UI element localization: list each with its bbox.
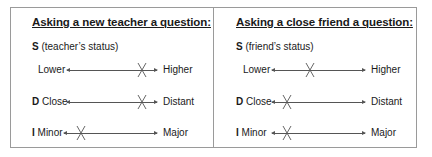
panel-title: Asking a close friend a question:: [236, 16, 413, 28]
status-desc: (friend’s status): [245, 41, 313, 52]
scale-right-label: Higher: [371, 63, 400, 77]
status-desc: (teacher’s status): [41, 41, 118, 52]
scale-right-label: Distant: [371, 95, 402, 109]
x-mark-icon: [282, 94, 292, 110]
scale-left-label: I Minor: [236, 126, 267, 140]
scale-left-label: Lower: [243, 63, 270, 77]
scale-axis: [272, 70, 365, 71]
scale-left-text: Minor: [242, 127, 267, 138]
scale-left-label: D Close: [236, 95, 272, 109]
status-heading: S (teacher’s status): [32, 41, 118, 52]
scale-imposition: I Minor Major: [0, 126, 432, 140]
x-mark-icon: [305, 62, 315, 78]
panel-title: Asking a new teacher a question:: [32, 16, 211, 28]
scale-letter: D: [236, 96, 243, 107]
status-heading: S (friend’s status): [236, 41, 314, 52]
scale-distance: D Close Distant: [0, 95, 432, 109]
x-mark-icon: [282, 125, 292, 141]
scale-letter: I: [236, 127, 239, 138]
scale-right-label: Major: [371, 126, 396, 140]
scale-left-text: Close: [246, 96, 272, 107]
status-letter: S: [236, 41, 243, 52]
scale-status: Lower Higher: [0, 63, 432, 77]
status-letter: S: [32, 41, 39, 52]
